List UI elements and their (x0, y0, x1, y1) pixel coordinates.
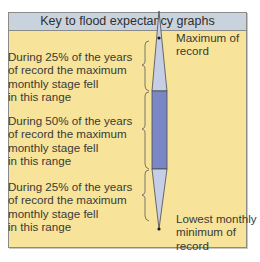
middle-bar (152, 91, 167, 169)
lower-wedge (152, 169, 167, 229)
maximum-of-record-label: Maximum of record (176, 31, 239, 58)
lowest-monthly-minimum-label: Lowest monthly minimum of record (176, 212, 257, 252)
brace-icons (142, 41, 149, 221)
upper-wedge (152, 11, 167, 91)
maximum-point-icon (157, 36, 160, 39)
minimum-point-icon (157, 227, 160, 230)
